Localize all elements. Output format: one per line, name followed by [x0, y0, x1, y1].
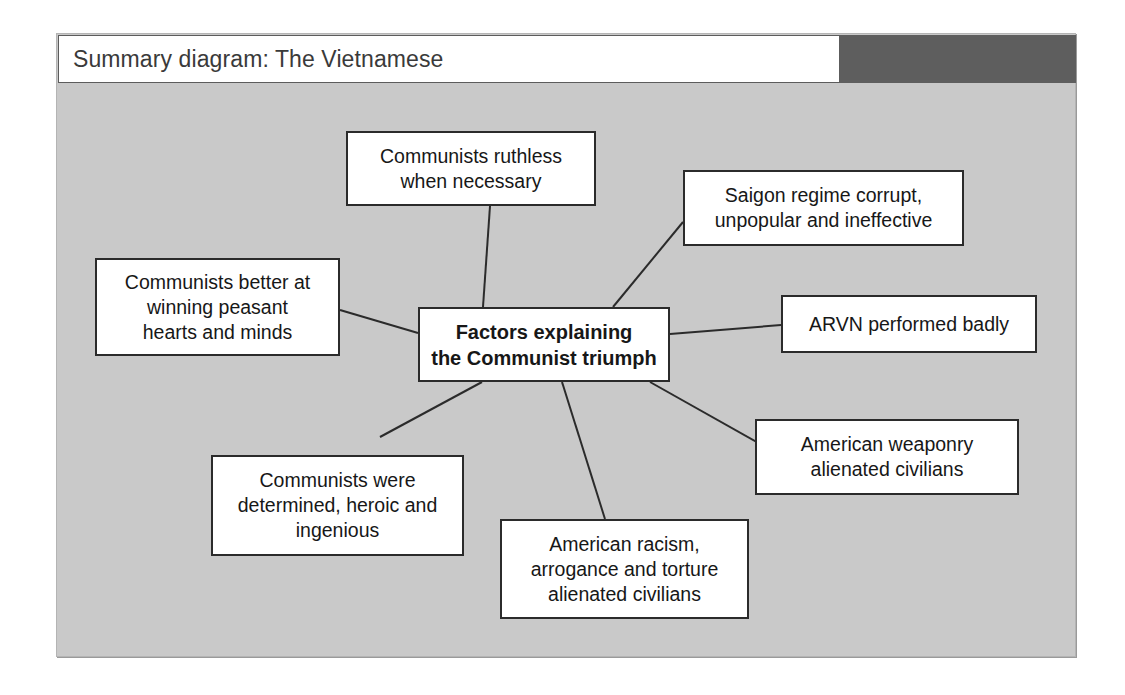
- node-american-weaponry[interactable]: American weaponryalienated civilians: [755, 419, 1019, 495]
- node-label: Communists better atwinning peasantheart…: [125, 270, 310, 345]
- header-accent-block: [840, 35, 1076, 83]
- header-bar: Summary diagram: The Vietnamese: [58, 35, 1076, 83]
- node-communists-hearts-minds[interactable]: Communists better atwinning peasantheart…: [95, 258, 340, 356]
- node-arvn-performed-badly[interactable]: ARVN performed badly: [781, 295, 1037, 353]
- node-communists-determined[interactable]: Communists weredetermined, heroic anding…: [211, 455, 464, 556]
- node-saigon-regime-corrupt[interactable]: Saigon regime corrupt,unpopular and inef…: [683, 170, 964, 246]
- node-american-racism[interactable]: American racism,arrogance and tortureali…: [500, 519, 749, 619]
- node-label: Factors explainingthe Communist triumph: [431, 319, 657, 371]
- node-label: Communists ruthlesswhen necessary: [380, 144, 562, 194]
- node-label: Saigon regime corrupt,unpopular and inef…: [715, 183, 933, 233]
- node-center[interactable]: Factors explainingthe Communist triumph: [418, 307, 670, 382]
- node-communists-ruthless[interactable]: Communists ruthlesswhen necessary: [346, 131, 596, 206]
- node-label: ARVN performed badly: [809, 312, 1009, 337]
- node-label: Communists weredetermined, heroic anding…: [238, 468, 437, 543]
- node-label: American weaponryalienated civilians: [801, 432, 973, 482]
- diagram-page: Summary diagram: The Vietnamese Factors …: [0, 0, 1125, 695]
- page-title: Summary diagram: The Vietnamese: [58, 35, 840, 83]
- node-label: American racism,arrogance and tortureali…: [531, 532, 719, 607]
